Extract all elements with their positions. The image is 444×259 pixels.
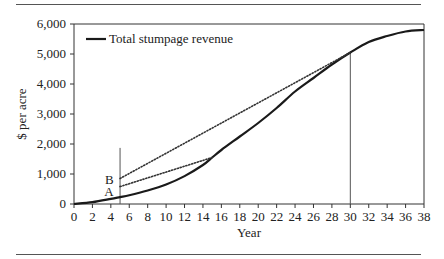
x-axis-title: Year (237, 225, 262, 240)
y-tick-label: 0 (60, 196, 67, 211)
legend: Total stumpage revenue (86, 31, 233, 46)
y-axis-title: $ per acre (14, 88, 29, 139)
total-stumpage-revenue-line (74, 30, 424, 204)
x-tick-label: 24 (289, 209, 303, 224)
x-tick-label: 22 (270, 209, 283, 224)
x-tick-label: 10 (160, 209, 173, 224)
x-tick-label: 30 (344, 209, 357, 224)
x-tick-label: 20 (252, 209, 265, 224)
x-tick-label: 28 (325, 209, 338, 224)
y-tick-label: 6,000 (37, 16, 66, 31)
legend-label: Total stumpage revenue (109, 31, 233, 46)
x-tick-label: 32 (362, 209, 375, 224)
annotations: BA (104, 172, 114, 199)
y-tick-label: 2,000 (37, 136, 66, 151)
y-tick-label: 5,000 (37, 46, 66, 61)
x-tick-label: 6 (126, 209, 133, 224)
x-tick-label: 0 (71, 209, 78, 224)
x-tick-label: 12 (178, 209, 191, 224)
y-axis: 01,0002,0003,0004,0005,0006,000 (37, 16, 74, 211)
x-tick-label: 36 (399, 209, 413, 224)
x-tick-label: 2 (89, 209, 96, 224)
y-tick-label: 1,000 (37, 166, 66, 181)
x-tick-label: 14 (196, 209, 210, 224)
x-tick-label: 16 (215, 209, 229, 224)
x-tick-label: 18 (233, 209, 246, 224)
series-group (74, 30, 424, 204)
x-axis: 02468101214161820222426283032343638 (71, 204, 431, 224)
chart: 01,0002,0003,0004,0005,0006,000 02468101… (0, 0, 444, 259)
y-tick-label: 4,000 (37, 76, 66, 91)
annotation-label-a: A (104, 184, 114, 199)
x-tick-label: 26 (307, 209, 321, 224)
dotted-chord-line (120, 53, 350, 179)
x-tick-label: 4 (108, 209, 115, 224)
y-tick-label: 3,000 (37, 106, 66, 121)
plot-frame (74, 24, 424, 204)
x-tick-label: 38 (418, 209, 431, 224)
x-tick-label: 8 (144, 209, 151, 224)
x-tick-label: 34 (381, 209, 395, 224)
dotted-chord-line (120, 158, 212, 187)
